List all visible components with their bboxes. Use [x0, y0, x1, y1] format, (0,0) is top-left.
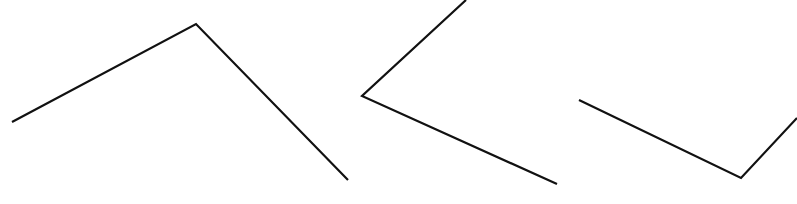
angle-diagram-canvas	[0, 0, 797, 204]
background	[0, 0, 797, 204]
